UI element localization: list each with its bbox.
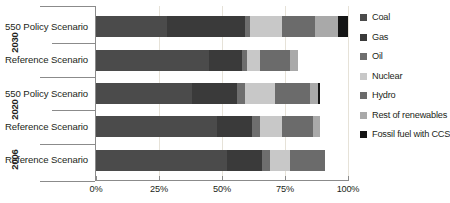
bar-segment [310, 83, 318, 104]
legend-label: Fossil fuel with CCS [372, 130, 450, 139]
x-axis-tick [159, 176, 160, 180]
legend-label: Hydro [372, 91, 396, 100]
chart-legend: CoalGasOilNuclearHydroRest of renewables… [360, 8, 444, 145]
bar-segment [227, 150, 262, 171]
legend-swatch-icon [360, 53, 367, 60]
bar-row [96, 116, 348, 137]
legend-swatch-icon [360, 34, 367, 41]
row-category-label: Reference Scenario [0, 155, 92, 165]
legend-swatch-icon [360, 112, 367, 119]
bar-segment [282, 116, 312, 137]
x-axis-line [95, 180, 349, 181]
x-axis-tick-label: 100% [318, 184, 378, 194]
bar-segment [96, 16, 167, 37]
legend-item[interactable]: Rest of renewables [360, 106, 444, 126]
legend-label: Oil [372, 52, 383, 61]
x-axis-tick-label: 50% [192, 184, 252, 194]
bar-row [96, 83, 348, 104]
x-axis-tick [222, 176, 223, 180]
legend-item[interactable]: Coal [360, 8, 444, 28]
bar-segment [96, 83, 192, 104]
bar-segment [262, 150, 270, 171]
x-axis-tick-label: 0% [66, 184, 126, 194]
axis-separator [52, 43, 95, 44]
bar-segment [209, 50, 242, 71]
bar-segment [290, 150, 325, 171]
bar-segment [338, 16, 348, 37]
legend-label: Coal [372, 13, 390, 22]
bar-segment [260, 116, 283, 137]
row-category-label: Reference Scenario [0, 55, 92, 65]
bar-segment [313, 116, 321, 137]
bar-segment [315, 16, 338, 37]
bar-segment [252, 116, 260, 137]
legend-swatch-icon [360, 131, 367, 138]
row-category-label: 550 Policy Scenario [0, 22, 92, 32]
bar-segment [250, 16, 283, 37]
gridline [348, 6, 349, 181]
x-axis-tick [285, 176, 286, 180]
row-category-label: 550 Policy Scenario [0, 89, 92, 99]
x-axis-tick [348, 176, 349, 180]
legend-item[interactable]: Oil [360, 47, 444, 67]
bar-segment [96, 150, 227, 171]
bar-segment [318, 83, 321, 104]
legend-label: Nuclear [372, 72, 402, 81]
x-axis-tick [96, 176, 97, 180]
bar-segment [96, 50, 209, 71]
bar-row [96, 16, 348, 37]
bar-segment [167, 16, 245, 37]
bar-segment [237, 83, 245, 104]
axis-separator [40, 6, 95, 7]
legend-label: Rest of renewables [372, 111, 447, 120]
row-category-label: Reference Scenario [0, 122, 92, 132]
legend-swatch-icon [360, 92, 367, 99]
axis-separator [40, 77, 95, 78]
bar-segment [245, 83, 275, 104]
legend-item[interactable]: Fossil fuel with CCS [360, 125, 444, 145]
legend-swatch-icon [360, 73, 367, 80]
bar-segment [247, 50, 260, 71]
x-axis-tick-label: 25% [129, 184, 189, 194]
bar-segment [275, 83, 310, 104]
axis-separator [40, 181, 95, 182]
bar-segment [96, 116, 217, 137]
bar-segment [192, 83, 237, 104]
legend-item[interactable]: Gas [360, 28, 444, 48]
legend-label: Gas [372, 33, 388, 42]
axis-separator [52, 110, 95, 111]
bar-segment [290, 50, 298, 71]
legend-item[interactable]: Hydro [360, 86, 444, 106]
bar-segment [282, 16, 315, 37]
bar-row [96, 50, 348, 71]
x-axis-tick-label: 75% [255, 184, 315, 194]
legend-item[interactable]: Nuclear [360, 67, 444, 87]
axis-separator [40, 144, 95, 145]
bar-row [96, 150, 348, 171]
bar-segment [270, 150, 290, 171]
legend-swatch-icon [360, 14, 367, 21]
bar-segment [217, 116, 252, 137]
bar-segment [260, 50, 290, 71]
